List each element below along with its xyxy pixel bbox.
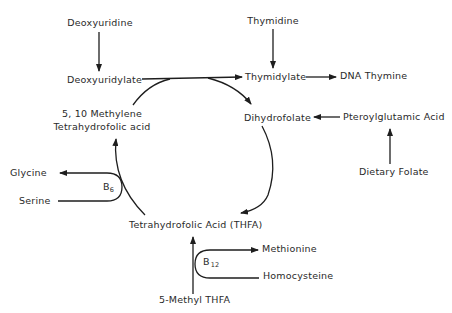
node-dietary-folate: Dietary Folate <box>359 166 429 177</box>
arrow-deoxyuridylate-to-thymidylate <box>142 77 242 79</box>
node-thfa: Tetrahydrofolic Acid (THFA) <box>128 219 262 230</box>
arc-thfa-to-methylene <box>116 139 145 215</box>
node-thymidine: Thymidine <box>246 15 299 26</box>
node-methionine: Methionine <box>262 243 317 254</box>
node-homocysteine: Homocysteine <box>263 270 333 281</box>
node-methylene-thfa-line1: 5, 10 Methylene <box>62 108 142 119</box>
node-dna-thymine: DNA Thymine <box>340 70 407 81</box>
node-dihydrofolate: Dihydrofolate <box>244 112 311 123</box>
node-glycine: Glycine <box>10 167 47 178</box>
node-pteroylglutamic-acid: Pteroylglutamic Acid <box>343 111 445 122</box>
arc-dihydrofolate-to-thfa <box>241 126 273 213</box>
folate-metabolism-diagram: Deoxyuridine Thymidine Deoxyuridylate Th… <box>0 0 452 313</box>
node-thymidylate: Thymidylate <box>244 71 306 82</box>
cofactor-b6: B6 <box>103 181 114 194</box>
node-methylene-thfa-line2: Tetrahydrofolic acid <box>52 121 150 132</box>
cofactor-b12: B12 <box>203 256 219 269</box>
node-serine: Serine <box>19 195 51 206</box>
node-deoxyuridylate: Deoxyuridylate <box>67 74 142 85</box>
node-5-methyl-thfa: 5-Methyl THFA <box>159 294 230 305</box>
node-deoxyuridine: Deoxyuridine <box>67 17 132 28</box>
